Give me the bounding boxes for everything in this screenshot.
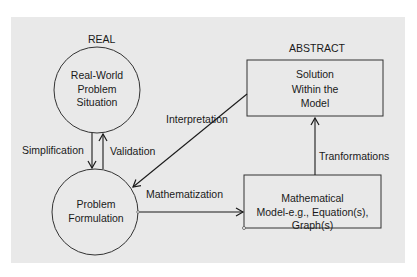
- interpretation-label: Interpretation: [166, 114, 228, 125]
- real-world-node-text: Real-World Problem Situation: [54, 69, 140, 110]
- math-model-node-text: Mathematical Model-e.g., Equation(s), Gr…: [244, 192, 381, 233]
- transformations-label: Tranformations: [319, 151, 389, 162]
- solution-node-text: Solution Within the Model: [247, 67, 383, 111]
- problem-formulation-node-text: Problem Formulation: [54, 198, 138, 225]
- diagram-shapes: [0, 0, 417, 277]
- region-label-real: REAL: [88, 34, 115, 45]
- interpretation-arrow: [133, 94, 247, 187]
- region-label-abstract: ABSTRACT: [289, 43, 345, 54]
- validation-label: Validation: [110, 146, 155, 157]
- simplification-label: Simplification: [22, 145, 84, 156]
- mathematization-label: Mathematization: [146, 189, 223, 200]
